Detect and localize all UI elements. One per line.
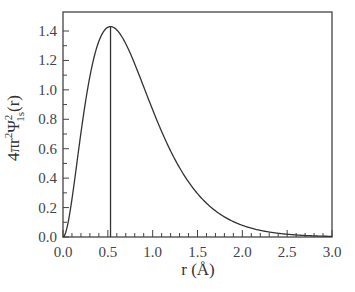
y-tick-label: 0.6	[38, 141, 57, 157]
y-tick-label: 1.0	[38, 82, 57, 98]
y-tick-label: 0.2	[38, 200, 57, 216]
y-tick-label: 1.4	[38, 23, 57, 39]
plot-frame	[63, 12, 332, 237]
x-tick-label: 0.5	[98, 244, 117, 260]
y-axis-title: 4πr2Ψ21s(r)	[2, 95, 26, 161]
y-tick-label: 0.0	[38, 229, 57, 245]
x-tick-label: 1.0	[143, 244, 162, 260]
y-tick-label: 0.4	[38, 170, 57, 186]
y-tick-label: 0.8	[38, 111, 57, 127]
x-tick-label: 2.0	[233, 244, 252, 260]
radial-probability-chart: 0.00.51.01.52.02.53.0 0.00.20.40.60.81.0…	[0, 0, 355, 292]
y-axis-ticks: 0.00.20.40.60.81.01.21.4	[38, 23, 69, 245]
x-tick-label: 1.5	[188, 244, 207, 260]
x-tick-label: 2.5	[278, 244, 297, 260]
x-axis-title: r (Å)	[181, 260, 215, 279]
x-tick-label: 0.0	[54, 244, 73, 260]
probability-curve	[63, 27, 332, 237]
x-tick-label: 3.0	[323, 244, 342, 260]
y-tick-label: 1.2	[38, 52, 57, 68]
